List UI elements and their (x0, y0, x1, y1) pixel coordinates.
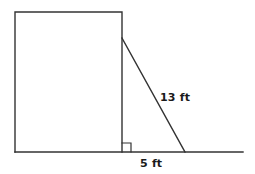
hypotenuse-length-label: 13 ft (160, 92, 190, 103)
figure-canvas (0, 0, 255, 174)
wall-rectangle (15, 12, 122, 152)
right-angle-marker (122, 143, 131, 152)
geometry-figure: 13 ft 5 ft (0, 0, 255, 174)
base-length-label: 5 ft (140, 158, 162, 169)
